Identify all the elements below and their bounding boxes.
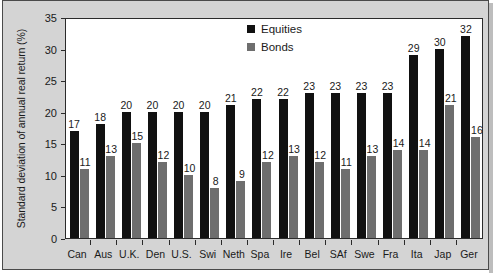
bar-value-equities: 23 [356,80,368,92]
bar-value-bonds: 15 [131,130,143,142]
legend-swatch-equities-icon [247,25,255,33]
bar-value-equities: 21 [225,92,237,104]
bar-value-equities: 23 [382,80,394,92]
bar-bonds [106,156,115,238]
x-tick-mark [378,240,379,245]
bar-value-bonds: 10 [184,162,196,174]
x-tick-label-us: U.S. [171,248,191,260]
y-axis-title: Standard deviation of annual real return… [15,18,29,239]
x-tick-label-jap: Jap [434,248,451,260]
bar-equities [435,49,444,238]
x-tick-label-aus: Aus [94,248,112,260]
chart-panel: Standard deviation of annual real return… [2,0,489,270]
y-tick-label: 25 [37,75,57,87]
bar-value-equities: 22 [277,86,289,98]
legend-item-equities: Equities [247,21,302,37]
bar-value-bonds: 14 [419,137,431,149]
bar-equities [122,112,131,238]
bar-value-equities: 20 [120,99,132,111]
bar-value-bonds: 11 [341,156,352,168]
bar-equities [226,105,235,238]
bar-bonds [184,175,193,238]
bar-equities [148,112,157,238]
y-tick-label: 20 [37,107,57,119]
legend-swatch-bonds-icon [247,43,255,51]
bar-bonds [236,181,245,238]
x-tick-label-den: Den [146,248,165,260]
bar-bonds [471,137,480,238]
chart-figure: Standard deviation of annual real return… [0,0,503,279]
bar-value-bonds: 21 [445,92,457,104]
x-tick-mark [195,240,196,245]
x-tick-label-neth: Neth [223,248,245,260]
x-tick-label-can: Can [67,248,86,260]
bar-bonds [210,188,219,239]
bar-equities [331,93,340,238]
bar-equities [200,112,209,238]
bar-value-equities: 20 [199,99,211,111]
bar-bonds [341,169,350,238]
bar-equities [357,93,366,238]
bar-bonds [289,156,298,238]
bar-bonds [393,150,402,238]
y-tick-label: 35 [37,12,57,24]
bar-bonds [80,169,89,238]
bar-equities [279,99,288,238]
y-tick-mark [61,239,65,240]
bar-bonds [262,162,271,238]
x-tick-label-uk: U.K. [119,248,139,260]
x-tick-mark [299,240,300,245]
bar-value-bonds: 8 [213,175,219,187]
y-tick-label: 0 [37,233,57,245]
x-tick-label-ger: Ger [460,248,478,260]
x-tick-mark [169,240,170,245]
x-tick-mark [221,240,222,245]
bar-value-equities: 23 [303,80,315,92]
bar-equities [383,93,392,238]
bar-value-equities: 17 [68,118,80,130]
legend-label: Equities [261,23,302,35]
y-tick-label: 15 [37,138,57,150]
y-tick-label: 10 [37,170,57,182]
bar-bonds [315,162,324,238]
bar-equities [70,131,79,238]
bar-bonds [419,150,428,238]
bar-equities [409,55,418,238]
bar-bonds [132,143,141,238]
bar-value-bonds: 12 [262,149,274,161]
x-tick-mark [273,240,274,245]
bar-value-bonds: 11 [80,156,91,168]
x-tick-mark [351,240,352,245]
bar-value-equities: 29 [408,42,420,54]
bar-value-bonds: 13 [105,143,117,155]
x-tick-mark [116,240,117,245]
bar-value-equities: 20 [147,99,159,111]
bar-equities [252,99,261,238]
bar-value-equities: 20 [173,99,185,111]
chart-legend: EquitiesBonds [247,21,302,57]
x-tick-mark [404,240,405,245]
bar-value-bonds: 12 [158,149,170,161]
x-tick-mark [90,240,91,245]
y-tick-label: 5 [37,201,57,213]
bar-value-equities: 18 [94,111,106,123]
bar-value-equities: 32 [460,23,472,35]
legend-item-bonds: Bonds [247,39,302,55]
bar-equities [174,112,183,238]
legend-label: Bonds [261,41,294,53]
x-tick-mark [325,240,326,245]
x-tick-label-fra: Fra [383,248,399,260]
x-tick-mark [247,240,248,245]
bar-value-equities: 23 [329,80,341,92]
bar-value-bonds: 16 [471,124,483,136]
x-tick-mark [456,240,457,245]
y-tick-label: 30 [37,44,57,56]
x-tick-label-saf: SAf [330,248,347,260]
x-tick-label-bel: Bel [305,248,320,260]
bar-bonds [158,162,167,238]
panel-drop-shadow [489,3,493,273]
y-axis-ticks: 05101520253035 [39,18,65,240]
bar-bonds [445,105,454,238]
x-tick-label-swe: Swe [354,248,374,260]
bar-value-bonds: 14 [393,137,405,149]
